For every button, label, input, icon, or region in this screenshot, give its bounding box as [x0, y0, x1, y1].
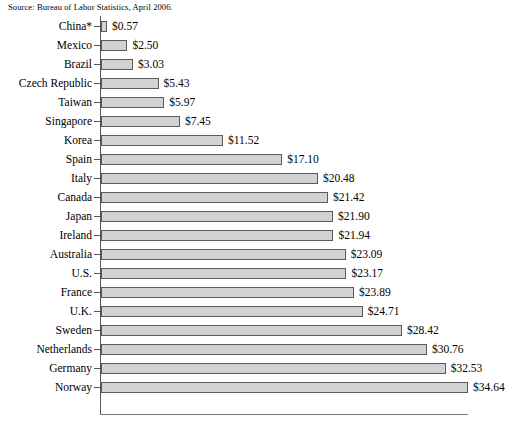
category-label: Italy	[71, 171, 92, 186]
bar-value-label: $5.43	[164, 76, 190, 91]
bar-row: Brazil$3.03	[0, 55, 520, 74]
bar-row: China*$0.57	[0, 17, 520, 36]
category-label: U.K.	[70, 304, 92, 319]
axis-tick	[94, 64, 100, 65]
axis-tick	[94, 368, 100, 369]
bar-row: Taiwan$5.97	[0, 93, 520, 112]
category-label: Brazil	[64, 57, 92, 72]
bar-value-label: $32.53	[451, 361, 483, 376]
bar	[101, 173, 318, 184]
bar-row: Spain$17.10	[0, 150, 520, 169]
source-note: Source: Bureau of Labor Statistics, Apri…	[8, 1, 173, 13]
bar-value-label: $30.76	[432, 342, 464, 357]
axis-tick	[94, 311, 100, 312]
axis-tick	[94, 330, 100, 331]
bar	[101, 59, 133, 70]
bar	[101, 116, 180, 127]
bar-row: Italy$20.48	[0, 169, 520, 188]
bar	[101, 97, 164, 108]
bar-value-label: $11.52	[228, 133, 259, 148]
bar	[101, 268, 346, 279]
category-label: Taiwan	[58, 95, 92, 110]
category-label: China*	[59, 19, 92, 34]
bar-row: Korea$11.52	[0, 131, 520, 150]
bar-value-label: $5.97	[169, 95, 195, 110]
bar-row: Canada$21.42	[0, 188, 520, 207]
bar-row: Germany$32.53	[0, 359, 520, 378]
bar-value-label: $7.45	[185, 114, 211, 129]
bar-value-label: $21.94	[338, 228, 370, 243]
bar-row: Ireland$21.94	[0, 226, 520, 245]
axis-tick	[94, 121, 100, 122]
category-label: Australia	[50, 247, 92, 262]
bar-value-label: $20.48	[323, 171, 355, 186]
category-label: Czech Republic	[19, 76, 92, 91]
bar-value-label: $21.42	[333, 190, 365, 205]
bar	[101, 249, 346, 260]
category-label: Canada	[58, 190, 92, 205]
bar	[101, 154, 282, 165]
chart-baseline	[100, 414, 468, 415]
category-label: Ireland	[59, 228, 92, 243]
bar-value-label: $21.90	[338, 209, 370, 224]
category-label: Singapore	[45, 114, 92, 129]
bar-value-label: $17.10	[287, 152, 319, 167]
axis-tick	[94, 159, 100, 160]
bar-chart: China*$0.57Mexico$2.50Brazil$3.03Czech R…	[0, 16, 520, 421]
bar-row: Mexico$2.50	[0, 36, 520, 55]
axis-tick	[94, 387, 100, 388]
bar-row: Australia$23.09	[0, 245, 520, 264]
bar-row: France$23.89	[0, 283, 520, 302]
category-label: Spain	[66, 152, 92, 167]
axis-tick	[94, 26, 100, 27]
bar-row: U.S.$23.17	[0, 264, 520, 283]
bar-row: Netherlands$30.76	[0, 340, 520, 359]
bar	[101, 230, 333, 241]
bar	[101, 363, 446, 374]
bar-value-label: $0.57	[112, 19, 138, 34]
bar-value-label: $23.89	[359, 285, 391, 300]
axis-tick	[94, 178, 100, 179]
bar-row: U.K.$24.71	[0, 302, 520, 321]
bar	[101, 287, 354, 298]
axis-tick	[94, 216, 100, 217]
bar	[101, 382, 468, 393]
category-label: U.S.	[72, 266, 92, 281]
bar-value-label: $23.09	[351, 247, 383, 262]
bar-value-label: $28.42	[407, 323, 439, 338]
axis-tick	[94, 292, 100, 293]
bar	[101, 78, 159, 89]
category-label: Netherlands	[36, 342, 92, 357]
bar	[101, 306, 363, 317]
category-label: Korea	[64, 133, 92, 148]
bar-value-label: $3.03	[138, 57, 164, 72]
category-label: Germany	[49, 361, 92, 376]
category-label: Norway	[55, 380, 92, 395]
axis-tick	[94, 102, 100, 103]
axis-tick	[94, 140, 100, 141]
bar	[101, 325, 402, 336]
bar	[101, 21, 107, 32]
bar-value-label: $34.64	[473, 380, 505, 395]
bar-row: Japan$21.90	[0, 207, 520, 226]
category-label: Japan	[66, 209, 92, 224]
axis-tick	[94, 254, 100, 255]
bar-row: Sweden$28.42	[0, 321, 520, 340]
bar	[101, 344, 427, 355]
axis-tick	[94, 273, 100, 274]
bar-row: Singapore$7.45	[0, 112, 520, 131]
bar	[101, 135, 223, 146]
bar-value-label: $24.71	[368, 304, 400, 319]
axis-tick	[94, 83, 100, 84]
axis-tick	[94, 197, 100, 198]
bar	[101, 40, 127, 51]
bar-value-label: $23.17	[351, 266, 383, 281]
category-label: Sweden	[56, 323, 92, 338]
axis-tick	[94, 235, 100, 236]
axis-tick	[94, 45, 100, 46]
bar-row: Czech Republic$5.43	[0, 74, 520, 93]
category-label: Mexico	[57, 38, 92, 53]
category-label: France	[61, 285, 92, 300]
bar-value-label: $2.50	[132, 38, 158, 53]
bar	[101, 211, 333, 222]
